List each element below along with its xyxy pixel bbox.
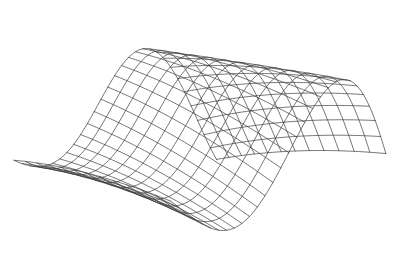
wireframe-mesh-canvas xyxy=(0,0,396,267)
surface-plot-figure xyxy=(0,0,396,267)
plot-background xyxy=(0,0,396,267)
